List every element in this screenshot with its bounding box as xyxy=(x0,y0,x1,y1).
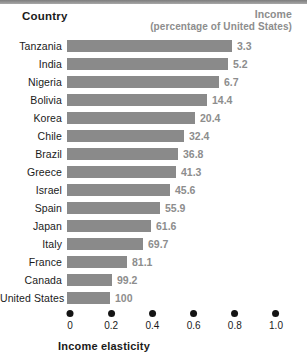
chart-row: Brazil36.8 xyxy=(0,146,307,164)
chart-row: India5.2 xyxy=(0,56,307,74)
bar xyxy=(67,58,228,70)
chart-row: Greece41.3 xyxy=(0,164,307,182)
country-label: Nigeria xyxy=(0,76,62,88)
tick-dot-icon xyxy=(108,310,115,317)
bar xyxy=(67,256,127,268)
chart-row: Bolivia14.4 xyxy=(0,92,307,110)
x-axis-tick: 1.0 xyxy=(269,310,283,331)
country-label: Italy xyxy=(0,238,62,250)
country-label: Bolivia xyxy=(0,94,62,106)
x-axis-title: Income elasticity xyxy=(58,340,150,352)
chart-row: Nigeria6.7 xyxy=(0,74,307,92)
bar-track: 55.9 xyxy=(67,202,307,214)
bar xyxy=(67,112,195,124)
bar xyxy=(67,184,170,196)
bar-value-label: 20.4 xyxy=(200,112,220,124)
bar-track: 45.6 xyxy=(67,184,307,196)
tick-dot-icon xyxy=(67,310,74,317)
bar xyxy=(67,148,178,160)
income-elasticity-chart: Country Income (percentage of United Sta… xyxy=(0,4,307,360)
bar xyxy=(67,220,151,232)
chart-row: Japan61.6 xyxy=(0,218,307,236)
country-label: France xyxy=(0,256,62,268)
bar-value-label: 32.4 xyxy=(189,130,209,142)
chart-row: Israel45.6 xyxy=(0,182,307,200)
chart-row: Spain55.9 xyxy=(0,200,307,218)
tick-dot-icon xyxy=(231,310,238,317)
bar-track: 3.3 xyxy=(67,40,307,52)
chart-row: Korea20.4 xyxy=(0,110,307,128)
bar xyxy=(67,166,176,178)
bar-value-label: 3.3 xyxy=(237,40,252,52)
bar-track: 20.4 xyxy=(67,112,307,124)
bar-track: 69.7 xyxy=(67,238,307,250)
tick-label: 0.2 xyxy=(104,320,118,331)
bar-track: 81.1 xyxy=(67,256,307,268)
country-label: Spain xyxy=(0,202,62,214)
bar xyxy=(67,40,232,52)
chart-row: United States100 xyxy=(0,290,307,308)
country-label: Israel xyxy=(0,184,62,196)
bar xyxy=(67,76,219,88)
country-label: Tanzania xyxy=(0,40,62,52)
bar-value-label: 6.7 xyxy=(224,76,239,88)
bar-value-label: 5.2 xyxy=(233,58,248,70)
tick-label: 0 xyxy=(67,320,74,331)
x-axis-tick: 0.6 xyxy=(187,310,201,331)
tick-label: 0.6 xyxy=(187,320,201,331)
bar-track: 14.4 xyxy=(67,94,307,106)
bar-track: 36.8 xyxy=(67,148,307,160)
bar-value-label: 81.1 xyxy=(132,256,152,268)
country-label: United States xyxy=(0,292,62,304)
chart-row: France81.1 xyxy=(0,254,307,272)
column-header-income: Income xyxy=(0,8,292,20)
chart-row: Tanzania3.3 xyxy=(0,38,307,56)
bar-value-label: 45.6 xyxy=(175,184,195,196)
bar xyxy=(67,94,207,106)
bar-track: 100 xyxy=(67,292,307,304)
bar-track: 61.6 xyxy=(67,220,307,232)
bar-value-label: 69.7 xyxy=(148,238,168,250)
bar-track: 6.7 xyxy=(67,76,307,88)
country-label: Canada xyxy=(0,274,62,286)
x-axis: Income elasticity 00.20.40.60.81.0 xyxy=(0,310,307,360)
bar xyxy=(67,130,184,142)
tick-dot-icon xyxy=(190,310,197,317)
bar xyxy=(67,202,160,214)
bar-value-label: 55.9 xyxy=(165,202,185,214)
bar-value-label: 41.3 xyxy=(181,166,201,178)
tick-label: 0.4 xyxy=(145,320,159,331)
country-label: India xyxy=(0,58,62,70)
bar-value-label: 99.2 xyxy=(117,274,137,286)
x-axis-tick: 0 xyxy=(67,310,74,331)
bar-value-label: 14.4 xyxy=(212,94,232,106)
column-header-income-sublabel: (percentage of United States) xyxy=(0,21,292,32)
country-label: Korea xyxy=(0,112,62,124)
tick-label: 1.0 xyxy=(269,320,283,331)
chart-row: Canada99.2 xyxy=(0,272,307,290)
country-label: Greece xyxy=(0,166,62,178)
country-label: Brazil xyxy=(0,148,62,160)
tick-dot-icon xyxy=(149,310,156,317)
x-axis-tick: 0.2 xyxy=(104,310,118,331)
bar-value-label: 100 xyxy=(115,292,133,304)
bar-track: 32.4 xyxy=(67,130,307,142)
bar-value-label: 61.6 xyxy=(156,220,176,232)
chart-rows: Tanzania3.3India5.2Nigeria6.7Bolivia14.4… xyxy=(0,38,307,308)
country-label: Chile xyxy=(0,130,62,142)
bar xyxy=(67,274,112,286)
bar-track: 5.2 xyxy=(67,58,307,70)
tick-label: 0.8 xyxy=(228,320,242,331)
bar-value-label: 36.8 xyxy=(183,148,203,160)
x-axis-tick: 0.4 xyxy=(145,310,159,331)
chart-row: Chile32.4 xyxy=(0,128,307,146)
bar xyxy=(67,292,110,304)
x-axis-tick: 0.8 xyxy=(228,310,242,331)
tick-dot-icon xyxy=(273,310,280,317)
bar-track: 41.3 xyxy=(67,166,307,178)
bar-track: 99.2 xyxy=(67,274,307,286)
bar xyxy=(67,238,143,250)
country-label: Japan xyxy=(0,220,62,232)
chart-row: Italy69.7 xyxy=(0,236,307,254)
